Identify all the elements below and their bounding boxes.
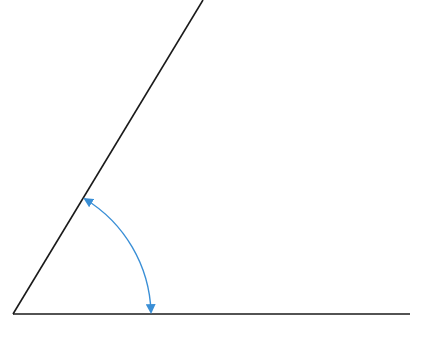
angle-arc-arrow xyxy=(85,199,151,312)
slanted-ray xyxy=(13,0,203,314)
angle-svg xyxy=(0,0,424,349)
angle-diagram xyxy=(0,0,424,349)
